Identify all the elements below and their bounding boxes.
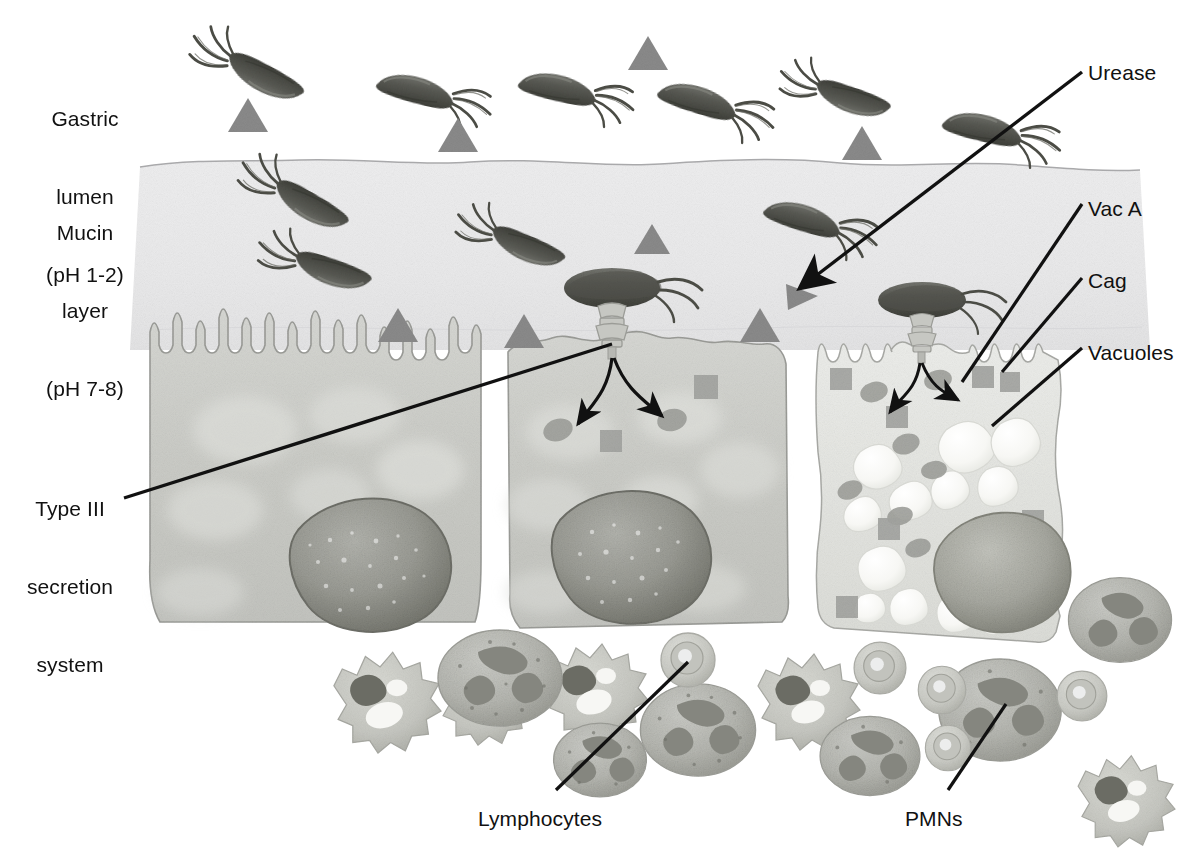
callout-label-cag: Cag <box>1088 268 1127 294</box>
bacteria-lumen <box>185 15 1064 172</box>
callout-label-vac-a: Vac A <box>1088 196 1142 222</box>
figure-canvas: Gastric lumen (pH 1-2) Mucin layer (pH 7… <box>0 0 1202 854</box>
type-iii-line-3: system <box>4 652 136 678</box>
type-iii-line-2: secretion <box>4 574 136 600</box>
callout-label-urease: Urease <box>1088 60 1156 86</box>
mucin-layer-line-1: Mucin <box>14 220 156 246</box>
epithelial-cell-infected <box>505 332 788 628</box>
nucleus <box>552 491 711 624</box>
region-label-mucin-layer: Mucin layer (pH 7-8) <box>14 168 156 428</box>
callout-label-type-iii-secretion-system: Type III secretion system <box>4 444 136 704</box>
nucleus <box>934 513 1071 633</box>
nucleus <box>290 498 451 631</box>
epithelial-cell-healthy <box>150 309 481 632</box>
mucin-layer-line-2: layer <box>14 298 156 324</box>
illustration <box>0 0 1202 854</box>
callout-label-vacuoles: Vacuoles <box>1088 340 1174 366</box>
gastric-lumen-line-1: Gastric <box>14 106 156 132</box>
callout-label-lymphocytes: Lymphocytes <box>478 806 602 832</box>
callout-label-pmns: PMNs <box>905 806 963 832</box>
mucin-layer-line-3: (pH 7-8) <box>14 376 156 402</box>
epithelial-cell-vacuolated <box>816 342 1071 642</box>
type-iii-line-1: Type III <box>4 496 136 522</box>
